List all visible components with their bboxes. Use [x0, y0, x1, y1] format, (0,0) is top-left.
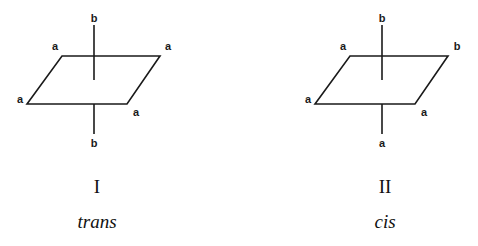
structure-II-label-axial-top: b: [379, 13, 386, 24]
structure-I-isomer-name: trans: [77, 212, 116, 231]
structure-II-isomer-name: cis: [374, 212, 395, 231]
structure-drawing-layer: [0, 0, 478, 246]
structure-II-label-equatorial-top-right: b: [454, 41, 461, 52]
structure-I-geometry: [27, 25, 160, 134]
structure-I-label-axial-bottom: b: [91, 138, 98, 149]
structure-I-label-equatorial-top-right: a: [165, 41, 171, 52]
structure-I-numeral: I: [94, 177, 100, 196]
structure-II-label-axial-bottom: a: [379, 138, 385, 149]
structure-II-numeral: II: [379, 177, 392, 196]
structure-II-label-equatorial-top-left: a: [340, 41, 346, 52]
structure-I-label-equatorial-bottom-left: a: [17, 94, 23, 105]
structure-II-label-equatorial-bottom-right: a: [421, 107, 427, 118]
structure-I-label-equatorial-bottom-right: a: [133, 107, 139, 118]
structure-I-label-axial-top: b: [91, 13, 98, 24]
stereochemistry-figure: b a a a a b I trans b a b a a a II cis: [0, 0, 478, 246]
structure-II-geometry: [315, 25, 448, 134]
structure-II-label-equatorial-bottom-left: a: [305, 94, 311, 105]
structure-I-label-equatorial-top-left: a: [52, 41, 58, 52]
